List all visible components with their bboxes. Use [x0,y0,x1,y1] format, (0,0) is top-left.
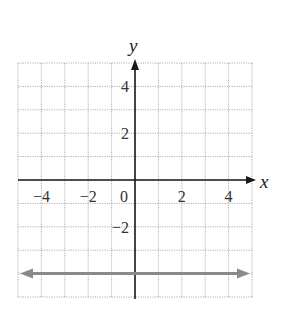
axes [18,59,256,299]
coordinate-plane: −4−202442−2 x y [0,0,284,324]
x-tick-label: 2 [178,188,186,205]
x-tick-label: −2 [80,188,97,205]
y-axis-arrow-icon [131,59,139,70]
y-tick-label: 2 [121,125,129,142]
y-tick-label: −2 [112,219,129,236]
x-tick-label: −4 [33,188,50,205]
tick-labels: −4−202442−2 [33,78,233,235]
y-axis-label: y [127,35,138,56]
line-left-arrow-icon [20,269,33,279]
line-right-arrow-icon [237,269,250,279]
x-axis-arrow-icon [246,176,256,184]
y-tick-label: 4 [121,78,129,95]
x-tick-label: 4 [225,188,233,205]
x-axis-label: x [259,171,269,192]
x-tick-label: 0 [120,188,128,205]
